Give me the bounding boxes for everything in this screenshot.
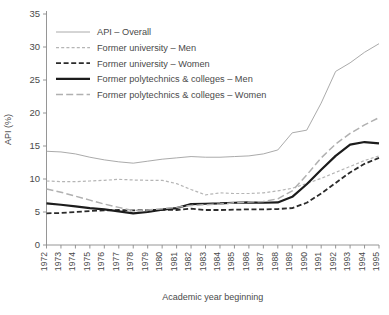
legend-label-0: API – Overall [97, 27, 151, 37]
x-tick-label: 1989 [284, 252, 294, 271]
x-tick-label: 1982 [183, 252, 193, 271]
x-tick-label: 1975 [82, 252, 92, 271]
legend-label-4: Former polytechnics & colleges – Women [97, 90, 266, 100]
y-axis-title: API (%) [3, 114, 13, 145]
x-tick-label: 1984 [212, 252, 222, 271]
series-line-4 [47, 118, 380, 211]
x-tick-label: 1976 [96, 252, 106, 271]
y-tick-label: 25 [29, 74, 40, 85]
x-tick-label: 1983 [198, 252, 208, 271]
x-tick-label: 1994 [357, 252, 367, 271]
x-tick-label: 1995 [371, 252, 381, 271]
y-tick-label: 35 [29, 8, 40, 19]
y-tick-label: 0 [35, 239, 40, 250]
x-tick-label: 1974 [67, 252, 77, 271]
x-tick-label: 1992 [328, 252, 338, 271]
x-tick-label: 1991 [313, 252, 323, 271]
x-tick-label: 1977 [111, 252, 121, 271]
x-tick-label: 1990 [299, 252, 309, 271]
x-tick-label: 1973 [53, 252, 63, 271]
y-tick-label: 5 [35, 206, 40, 217]
x-tick-label: 1987 [255, 252, 265, 271]
y-tick-label: 15 [29, 140, 40, 151]
x-axis-title: Academic year beginning [162, 292, 263, 302]
x-tick-label: 1985 [226, 252, 236, 271]
y-tick-label: 20 [29, 107, 40, 118]
x-tick-label: 1981 [169, 252, 179, 271]
x-tick-label: 1980 [154, 252, 164, 271]
legend-label-2: Former university – Women [97, 59, 210, 69]
y-tick-label: 10 [29, 173, 40, 184]
x-tick-label: 1986 [241, 252, 251, 271]
x-tick-label: 1979 [140, 252, 150, 271]
y-tick-label: 30 [29, 41, 40, 52]
x-tick-label: 1988 [270, 252, 280, 271]
x-tick-label: 1993 [342, 252, 352, 271]
x-tick-label: 1978 [125, 252, 135, 271]
chart-canvas: 05101520253035API (%)1972197319741975197… [0, 0, 389, 315]
line-chart: 05101520253035API (%)1972197319741975197… [0, 0, 389, 315]
legend-label-1: Former university – Men [97, 43, 196, 53]
x-tick-label: 1972 [39, 252, 49, 271]
legend-label-3: Former polytechnics & colleges – Men [97, 74, 253, 84]
